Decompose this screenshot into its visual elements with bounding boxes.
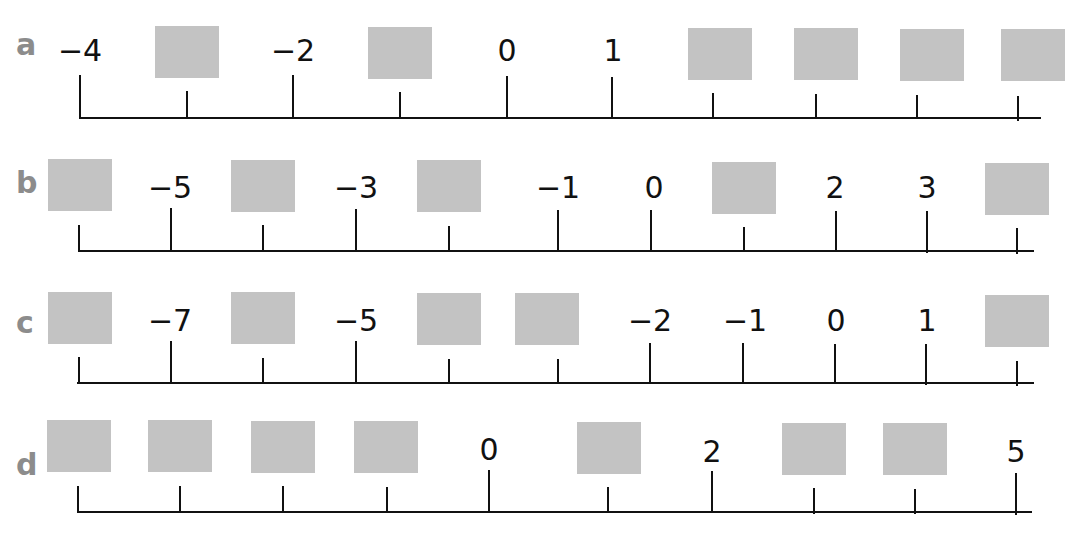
tick-mark — [448, 359, 450, 384]
tick-mark — [1015, 473, 1017, 515]
tick-mark — [1017, 96, 1019, 121]
number-label: 5 — [964, 437, 1068, 467]
answer-box[interactable] — [148, 420, 212, 472]
answer-box[interactable] — [712, 162, 776, 214]
answer-box[interactable] — [354, 421, 418, 473]
answer-box[interactable] — [417, 160, 481, 212]
tick-mark — [262, 225, 264, 252]
axis-line — [77, 511, 1032, 513]
answer-box[interactable] — [782, 423, 846, 475]
tick-mark — [79, 75, 81, 119]
tick-mark — [355, 341, 357, 384]
answer-box[interactable] — [900, 29, 964, 81]
tick-mark — [1016, 228, 1018, 254]
number-label: 0 — [602, 173, 706, 203]
number-label: 1 — [875, 306, 979, 336]
answer-box[interactable] — [794, 28, 858, 80]
answer-box[interactable] — [985, 295, 1049, 347]
answer-box[interactable] — [1001, 29, 1065, 81]
tick-mark — [712, 93, 714, 119]
number-label: 3 — [875, 173, 979, 203]
number-line-c: c −7 −5 −2 −1 0 1 — [0, 270, 1077, 400]
answer-box[interactable] — [231, 292, 295, 344]
tick-mark — [78, 357, 80, 384]
number-label: −5 — [118, 173, 222, 203]
tick-mark — [835, 211, 837, 252]
tick-mark — [650, 210, 652, 252]
tick-mark — [815, 94, 817, 119]
answer-box[interactable] — [883, 423, 947, 475]
answer-box[interactable] — [577, 422, 641, 474]
tick-mark — [262, 358, 264, 384]
number-line-d: d 0 2 5 — [0, 400, 1077, 530]
row-letter: b — [16, 168, 37, 198]
tick-mark — [743, 227, 745, 252]
number-label: −4 — [28, 36, 132, 66]
tick-mark — [170, 341, 172, 384]
tick-mark — [834, 344, 836, 384]
number-label: 0 — [455, 36, 559, 66]
tick-mark — [611, 77, 613, 119]
number-label: −1 — [506, 173, 610, 203]
tick-mark — [399, 92, 401, 119]
tick-mark — [186, 91, 188, 119]
tick-mark — [557, 210, 559, 252]
answer-box[interactable] — [417, 293, 481, 345]
tick-mark — [292, 75, 294, 119]
tick-mark — [488, 470, 490, 513]
tick-mark — [916, 95, 918, 119]
tick-mark — [506, 76, 508, 119]
tick-mark — [649, 343, 651, 384]
answer-box[interactable] — [368, 27, 432, 79]
number-line-a: a −4 −2 0 1 — [0, 0, 1077, 130]
answer-box[interactable] — [47, 420, 111, 472]
number-label: −7 — [118, 306, 222, 336]
answer-box[interactable] — [155, 26, 219, 78]
axis-line — [77, 382, 1034, 384]
tick-mark — [170, 208, 172, 252]
tick-mark — [925, 344, 927, 385]
number-label: 2 — [660, 437, 764, 467]
number-label: −3 — [304, 173, 408, 203]
row-letter: d — [16, 450, 37, 480]
number-label: 1 — [561, 36, 665, 66]
tick-mark — [607, 487, 609, 513]
tick-mark — [742, 343, 744, 384]
answer-box[interactable] — [515, 293, 579, 345]
number-label: 2 — [783, 173, 887, 203]
tick-mark — [926, 211, 928, 253]
tick-mark — [355, 209, 357, 252]
answer-box[interactable] — [688, 28, 752, 80]
number-label: −2 — [598, 306, 702, 336]
tick-mark — [914, 489, 916, 514]
answer-box[interactable] — [231, 160, 295, 212]
answer-box[interactable] — [251, 421, 315, 473]
tick-mark — [282, 486, 284, 513]
tick-mark — [1016, 361, 1018, 386]
number-line-b: b −5 −3 −1 0 2 3 — [0, 140, 1077, 270]
number-label: −2 — [241, 36, 345, 66]
tick-mark — [813, 488, 815, 514]
tick-mark — [711, 471, 713, 513]
tick-mark — [77, 486, 79, 513]
answer-box[interactable] — [985, 163, 1049, 215]
axis-line — [78, 250, 1034, 252]
number-label: −5 — [304, 306, 408, 336]
tick-mark — [78, 225, 80, 252]
axis-line — [79, 117, 1041, 119]
tick-mark — [179, 486, 181, 513]
number-label: −1 — [693, 306, 797, 336]
number-label: 0 — [784, 306, 888, 336]
tick-mark — [557, 359, 559, 384]
answer-box[interactable] — [48, 292, 112, 344]
tick-mark — [448, 226, 450, 252]
tick-mark — [386, 487, 388, 513]
answer-box[interactable] — [48, 159, 112, 211]
row-letter: c — [16, 308, 34, 338]
number-label: 0 — [437, 435, 541, 465]
